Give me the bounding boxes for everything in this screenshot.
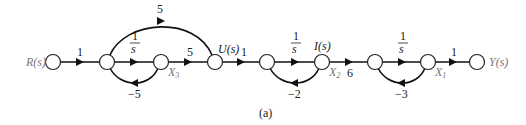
arrow-icon bbox=[130, 58, 138, 66]
svg-text:1: 1 bbox=[132, 29, 138, 43]
label-r: R(s) bbox=[25, 55, 46, 69]
arrow-icon bbox=[449, 58, 457, 66]
node-7 bbox=[368, 55, 383, 70]
arrow-icon bbox=[237, 58, 245, 66]
figure-caption: (a) bbox=[259, 106, 272, 120]
gain-fb3: −5 bbox=[128, 87, 141, 101]
arrow-icon bbox=[397, 79, 405, 87]
node-y bbox=[470, 55, 485, 70]
gain-n7-x1: 1 s bbox=[398, 29, 408, 56]
gain-x3-u: 5 bbox=[187, 45, 193, 59]
branch-x3-n2-feedback bbox=[110, 68, 158, 83]
gain-x2-n7: 6 bbox=[347, 66, 353, 80]
arrow-icon bbox=[345, 58, 353, 66]
svg-text:1: 1 bbox=[400, 29, 406, 43]
arrow-icon bbox=[184, 58, 192, 66]
node-x3 bbox=[154, 55, 169, 70]
label-x1: X1 bbox=[434, 65, 446, 80]
label-y: Y(s) bbox=[489, 55, 508, 69]
arrow-icon bbox=[157, 17, 165, 25]
node-2 bbox=[100, 55, 115, 70]
gain-n5-x2: 1 s bbox=[291, 29, 301, 56]
arrow-icon bbox=[291, 58, 299, 66]
node-u bbox=[208, 55, 223, 70]
arrow-icon bbox=[76, 58, 84, 66]
node-r bbox=[46, 55, 61, 70]
arrow-icon bbox=[398, 58, 406, 66]
gain-u-n5: 1 bbox=[241, 45, 247, 59]
svg-text:s: s bbox=[131, 42, 136, 56]
branch-n2-u-feedforward bbox=[110, 27, 212, 55]
svg-text:s: s bbox=[292, 42, 297, 56]
label-x2: X2 bbox=[328, 65, 340, 80]
label-u: U(s) bbox=[218, 42, 239, 56]
arrow-icon bbox=[130, 79, 138, 87]
gain-n2-x3: 1 s bbox=[130, 29, 140, 56]
svg-text:1: 1 bbox=[293, 29, 299, 43]
node-5 bbox=[260, 55, 275, 70]
label-x3: X3 bbox=[167, 65, 179, 80]
label-i: I(s) bbox=[313, 39, 331, 53]
arrow-icon bbox=[290, 79, 298, 87]
gain-r-n2: 1 bbox=[77, 45, 83, 59]
signal-flow-graph: R(s) Y(s) U(s) I(s) X3 X2 X1 1 5 5 −5 1 … bbox=[0, 0, 526, 125]
node-x2 bbox=[315, 55, 330, 70]
node-x1 bbox=[421, 55, 436, 70]
svg-text:s: s bbox=[399, 42, 404, 56]
gain-feedforward: 5 bbox=[157, 2, 163, 16]
gain-fb1: −3 bbox=[395, 87, 408, 101]
gain-fb2: −2 bbox=[288, 87, 301, 101]
gain-x1-y: 1 bbox=[451, 45, 457, 59]
